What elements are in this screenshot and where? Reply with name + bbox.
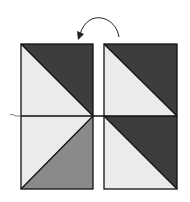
rotate-arrow-icon [77, 18, 119, 40]
quilt-diagram [0, 0, 190, 202]
